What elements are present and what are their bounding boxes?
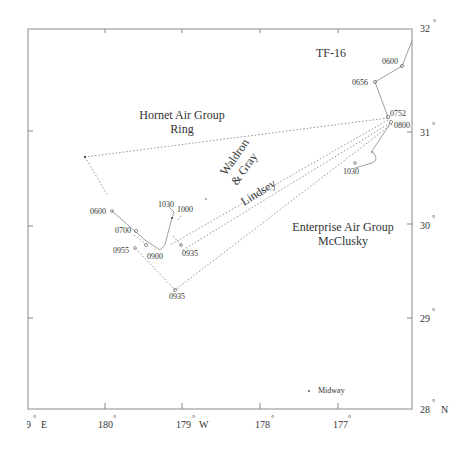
lat-label-29: 29 ° [420,307,435,324]
svg-text:32: 32 [420,23,430,34]
time-label: 0955 [113,246,129,255]
lon-label-177: 177 ° [333,414,351,430]
time-label: 0900 [147,252,163,261]
enterprise-label: Enterprise Air Group [292,220,393,234]
svg-text:177: 177 [333,419,348,430]
time-label: 0752 [390,109,406,118]
marker [205,198,207,200]
marker [354,162,357,165]
svg-text:°: ° [432,121,435,130]
tf16-return-track [355,124,390,168]
hornet-leader-label: Ring [170,122,193,136]
svg-text:28: 28 [420,404,430,415]
marker [389,120,392,123]
svg-text:29: 29 [420,313,430,324]
svg-text:°: ° [271,414,274,423]
time-label: 1030 [343,167,359,176]
svg-text:79: 79 [21,419,31,430]
time-label: 0600 [90,207,106,216]
lat-label-31: 31 ° [420,121,435,138]
lon-label-180: 180 ° [98,414,116,430]
hornet-track-west [85,157,108,196]
svg-text:°: ° [113,414,116,423]
svg-text:°: ° [348,414,351,423]
marker [171,217,173,219]
svg-text:30: 30 [420,220,430,231]
hornet-label: Hornet Air Group [139,108,224,122]
svg-text:°: ° [432,214,435,223]
svg-text:179: 179 [176,419,191,430]
midway-label: Midway [318,386,345,395]
lat-label-28: 28 ° N [420,398,448,415]
marker [84,156,86,158]
marker [180,244,183,247]
svg-text:N: N [441,404,448,415]
tf16-track [375,41,412,117]
svg-text:°: ° [432,398,435,407]
west-track-3 [173,236,181,245]
mcclusky-label: McClusky [318,234,368,248]
midway-marker [308,390,310,392]
svg-text:W: W [199,419,209,430]
midway-battle-map: Hornet Air Group Ring Waldron & Gray Lin… [0,0,472,453]
lat-label-30: 30 ° [420,214,435,231]
west-track-4 [178,216,181,220]
svg-text:E: E [41,419,47,430]
svg-text:°: ° [33,414,36,423]
lon-label-179w: 179 ° W [176,414,209,430]
svg-text:°: ° [432,307,435,316]
tf16-label: TF-16 [316,46,346,60]
svg-text:31: 31 [420,127,430,138]
time-label: 0800 [394,121,410,130]
time-label: 0600 [382,57,398,66]
svg-text:178: 178 [255,419,270,430]
time-label: 0656 [352,78,368,87]
time-label: 0935 [182,249,198,258]
time-label: 0935 [169,292,185,301]
time-label: 1000 [177,205,193,214]
lon-label-179e: 79 ° E [21,414,47,430]
lon-label-178: 178 ° [255,414,274,430]
time-label: 1030 [158,200,174,209]
svg-text:°: ° [433,18,436,27]
marker [134,247,137,250]
lat-label-32: 32 ° [420,18,436,34]
time-label: 0700 [115,226,131,235]
svg-text:180: 180 [98,419,113,430]
svg-text:°: ° [192,414,195,423]
